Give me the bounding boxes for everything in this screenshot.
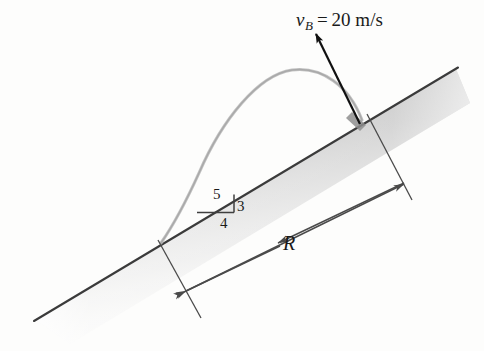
velocity-subscript: B bbox=[305, 18, 313, 33]
slope-horizontal-label: 4 bbox=[220, 216, 228, 231]
velocity-arrow bbox=[316, 34, 360, 124]
inclined-plane bbox=[34, 68, 470, 345]
equals-sign: = bbox=[317, 9, 328, 30]
velocity-vector bbox=[316, 34, 366, 131]
velocity-label: vB=20 m/s bbox=[296, 10, 383, 32]
incline-shading-fade bbox=[36, 69, 470, 344]
incline-surface-edge bbox=[34, 68, 458, 322]
projectile-incline-figure: vB=20 m/s R 5 3 4 bbox=[0, 0, 484, 351]
slope-hypotenuse-label: 5 bbox=[213, 187, 221, 202]
velocity-value: 20 m/s bbox=[332, 9, 383, 30]
slope-vertical-label: 3 bbox=[237, 199, 245, 214]
velocity-symbol: v bbox=[296, 9, 304, 30]
range-label: R bbox=[283, 233, 295, 253]
figure-canvas bbox=[0, 0, 484, 351]
